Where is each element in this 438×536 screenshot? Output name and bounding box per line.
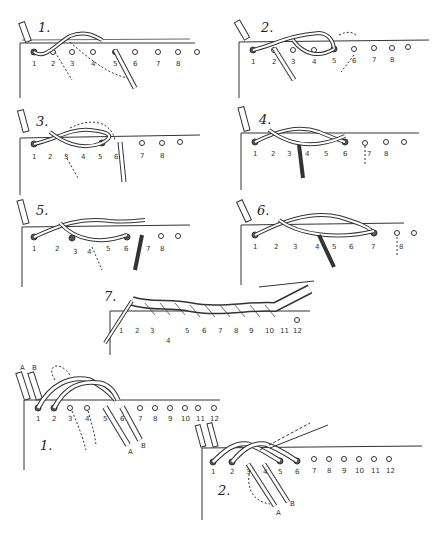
step-2-diagram: 2. 1 2 3 4 5 6 7 8 bbox=[219, 0, 438, 100]
hole-number: 2 bbox=[48, 153, 52, 161]
hole-number: 8 bbox=[384, 150, 388, 158]
hole-number: 5 bbox=[332, 57, 336, 65]
hole-number: 9 bbox=[168, 415, 172, 423]
double-step-2-illustration bbox=[190, 420, 438, 536]
hole-number: 2 bbox=[272, 58, 276, 66]
step-3-illustration bbox=[0, 100, 219, 195]
hole-number: 3 bbox=[291, 58, 295, 66]
step-2-illustration bbox=[219, 0, 438, 100]
hole-number: 11 bbox=[280, 327, 289, 335]
hole-number: 6 bbox=[349, 243, 353, 251]
hole-number: 8 bbox=[399, 243, 403, 251]
hole-number: 4 bbox=[85, 415, 89, 423]
hole-number: 7 bbox=[138, 415, 142, 423]
hole-number: 2 bbox=[52, 415, 56, 423]
hole-number: 5 bbox=[113, 60, 117, 68]
hole-number: 12 bbox=[293, 327, 302, 335]
step-label: 1. bbox=[40, 438, 52, 453]
step-5-diagram: 5. 1 2 3 4 5 6 7 8 bbox=[0, 195, 219, 290]
hole-number: 2 bbox=[135, 327, 139, 335]
step-6-illustration bbox=[219, 195, 438, 290]
hole-number: 6 bbox=[124, 245, 128, 253]
hole-number: 1 bbox=[211, 468, 215, 476]
strand-label-a: A bbox=[20, 364, 25, 372]
double-step-1-diagram: A B 1. A B 1 2 3 4 5 6 7 8 9 10 11 12 bbox=[0, 345, 220, 470]
needle-label-a: A bbox=[128, 448, 133, 456]
needle-label-a: A bbox=[276, 509, 281, 517]
hole-number: 11 bbox=[371, 467, 380, 475]
step-4-illustration bbox=[219, 100, 438, 195]
strand-label-b: B bbox=[32, 364, 37, 372]
step-label: 4. bbox=[259, 112, 271, 127]
step-label: 3. bbox=[36, 114, 48, 129]
hole-number: 6 bbox=[343, 150, 347, 158]
hole-number: 6 bbox=[352, 57, 356, 65]
step-1-illustration bbox=[0, 0, 219, 100]
hole-number: 5 bbox=[324, 150, 328, 158]
hole-number: 6 bbox=[133, 60, 137, 68]
hole-number: 8 bbox=[153, 415, 157, 423]
hole-number: 1 bbox=[32, 245, 36, 253]
hole-number: 5 bbox=[98, 153, 102, 161]
hole-number: 10 bbox=[355, 467, 364, 475]
hole-number: 1 bbox=[32, 60, 36, 68]
hole-number: 6 bbox=[295, 468, 299, 476]
hole-number: 7 bbox=[372, 56, 376, 64]
step-label: 6. bbox=[257, 203, 269, 218]
hole-number: 4 bbox=[91, 60, 95, 68]
step-1-diagram: 1. 1 2 3 4 5 6 7 8 bbox=[0, 0, 219, 100]
step-label: 2. bbox=[261, 20, 273, 35]
step-label: 5. bbox=[36, 203, 48, 218]
hole-number: 3 bbox=[73, 248, 77, 256]
hole-number: 8 bbox=[160, 245, 164, 253]
hole-number: 7 bbox=[218, 327, 222, 335]
hole-number: 12 bbox=[386, 467, 395, 475]
hole-number: 2 bbox=[271, 150, 275, 158]
hole-number: 4 bbox=[263, 468, 267, 476]
hole-number: 7 bbox=[146, 245, 150, 253]
hole-number: 6 bbox=[114, 153, 118, 161]
hole-number: 5 bbox=[106, 245, 110, 253]
hole-number: 1 bbox=[251, 58, 255, 66]
hole-number: 2 bbox=[230, 468, 234, 476]
hole-number: 4 bbox=[315, 243, 319, 251]
hole-number: 8 bbox=[160, 152, 164, 160]
hole-number: 5 bbox=[278, 468, 282, 476]
hole-number: 3 bbox=[70, 60, 74, 68]
hole-number: 5 bbox=[103, 415, 107, 423]
hole-number: 7 bbox=[312, 467, 316, 475]
needle-label-b: B bbox=[141, 442, 146, 450]
hole-number: 7 bbox=[156, 60, 160, 68]
hole-number: 3 bbox=[246, 468, 250, 476]
hole-number: 3 bbox=[68, 415, 72, 423]
step-5-illustration bbox=[0, 195, 219, 290]
hole-number: 4 bbox=[305, 150, 309, 158]
hole-number: 10 bbox=[181, 415, 190, 423]
hole-number: 7 bbox=[371, 243, 375, 251]
hole-number: 3 bbox=[150, 327, 154, 335]
needle-label-b: B bbox=[290, 500, 295, 508]
hole-number: 8 bbox=[234, 327, 238, 335]
hole-number: 3 bbox=[64, 153, 68, 161]
hole-number: 3 bbox=[293, 243, 297, 251]
hole-number: 2 bbox=[51, 60, 55, 68]
hole-number: 2 bbox=[55, 245, 59, 253]
hole-number: 1 bbox=[119, 327, 123, 335]
step-6-diagram: 6. 1 2 3 4 5 6 7 8 bbox=[219, 195, 438, 290]
step-label: 7. bbox=[104, 289, 116, 304]
hole-number: 1 bbox=[253, 150, 257, 158]
hole-number: 8 bbox=[327, 467, 331, 475]
step-3-diagram: 3. 1 2 3 4 5 6 7 8 bbox=[0, 100, 219, 195]
step-label: 2. bbox=[218, 483, 230, 498]
hole-number: 8 bbox=[390, 56, 394, 64]
hole-number: 2 bbox=[274, 243, 278, 251]
hole-number: 5 bbox=[185, 327, 189, 335]
hole-number: 8 bbox=[176, 60, 180, 68]
hole-number: 6 bbox=[120, 415, 124, 423]
hole-number: 7 bbox=[140, 152, 144, 160]
hole-number: 4 bbox=[312, 58, 316, 66]
hole-number: 4 bbox=[81, 153, 85, 161]
hole-number: 6 bbox=[202, 327, 206, 335]
hole-number: 4 bbox=[87, 248, 91, 256]
hole-number: 7 bbox=[367, 150, 371, 158]
